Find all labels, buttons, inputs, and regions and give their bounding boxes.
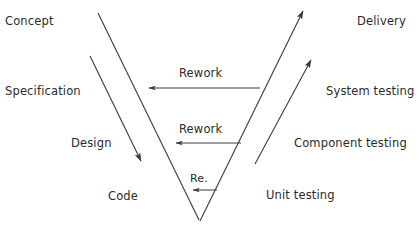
label-specification: Specification xyxy=(5,86,81,98)
label-rework-2: Rework xyxy=(179,124,222,136)
diagram-canvas xyxy=(0,0,419,233)
label-system-testing: System testing xyxy=(326,86,415,98)
label-delivery: Delivery xyxy=(357,16,406,28)
label-rework-3: Re. xyxy=(190,173,208,184)
label-rework-1: Rework xyxy=(179,68,222,80)
label-unit-testing: Unit testing xyxy=(266,190,335,202)
label-design: Design xyxy=(71,138,112,150)
label-code: Code xyxy=(108,191,138,203)
label-component-testing: Component testing xyxy=(294,138,407,150)
label-concept: Concept xyxy=(5,16,54,28)
v-model-diagram: Concept Specification Design Code Delive… xyxy=(0,0,419,233)
